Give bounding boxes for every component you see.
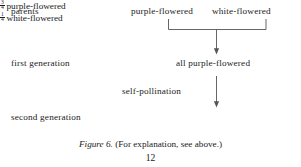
mendel-inheritance-figure: parents first generation second generati… — [0, 0, 301, 167]
fraction-one-quarter: 1 4 — [0, 12, 5, 21]
parent-purple-flowered-label: purple-flowered — [131, 6, 193, 17]
figure-caption-text: (For explanation, see above.) — [115, 139, 222, 149]
first-generation-result-label: all purple-flowered — [176, 58, 250, 69]
arrowhead-f1-to-f2 — [214, 101, 219, 107]
parent-white-flowered-label: white-flowered — [212, 6, 271, 17]
fraction-denominator: 4 — [0, 5, 5, 11]
arrowhead-parents-to-f1 — [214, 48, 219, 54]
stage-label-second-generation: second generation — [11, 112, 81, 123]
page-number: 12 — [0, 152, 301, 163]
stage-label-parents: parents — [11, 6, 39, 17]
figure-caption-label: Figure 6. — [79, 139, 113, 149]
stage-label-first-generation: first generation — [11, 58, 70, 69]
fraction-three-quarters: 3 4 — [0, 0, 5, 9]
fraction-denominator: 4 — [0, 17, 5, 23]
self-pollination-label: self-pollination — [122, 86, 181, 97]
figure-caption: Figure 6. (For explanation, see above.) — [0, 139, 301, 150]
